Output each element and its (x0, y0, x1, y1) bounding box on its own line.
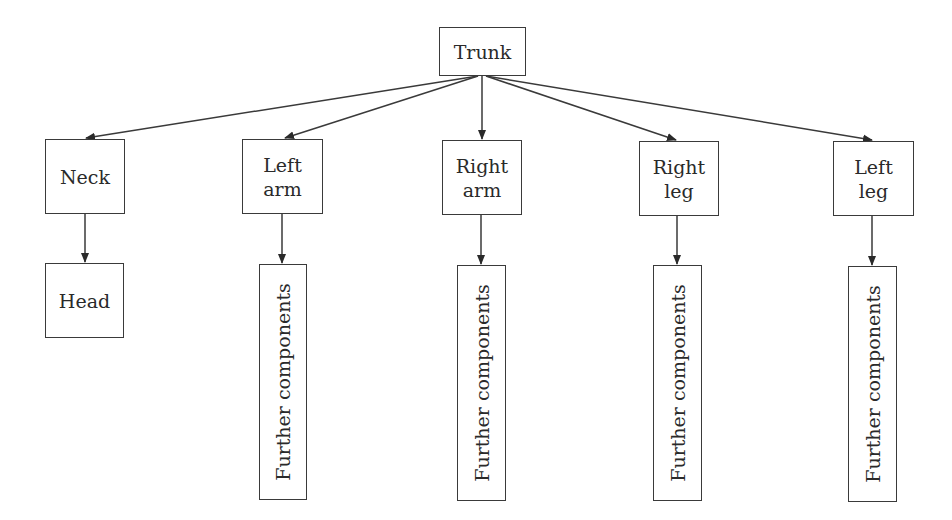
node-label: Right leg (653, 155, 705, 203)
node-left-leg: Left leg (833, 141, 914, 216)
edge-trunk-left-leg (486, 76, 872, 140)
node-label: Head (59, 289, 110, 313)
node-label: Left leg (854, 155, 893, 203)
node-trunk: Trunk (439, 27, 526, 76)
node-right-arm: Right arm (442, 140, 522, 215)
node-label: Further components (271, 283, 295, 481)
node-label: Further components (666, 284, 690, 482)
node-right-leg: Right leg (639, 141, 719, 216)
node-head: Head (45, 263, 124, 338)
node-left-arm-further-components: Further components (259, 264, 307, 500)
node-right-leg-further-components: Further components (653, 265, 702, 501)
edge-trunk-right-leg (486, 76, 676, 140)
edge-trunk-neck (86, 76, 478, 138)
node-label: Left arm (263, 153, 302, 201)
node-label: Further components (861, 285, 885, 483)
edge-trunk-left-arm (285, 76, 478, 138)
node-neck: Neck (45, 139, 125, 214)
node-left-arm: Left arm (242, 139, 323, 214)
node-right-arm-further-components: Further components (457, 265, 506, 501)
node-label: Further components (470, 284, 494, 482)
node-label: Trunk (454, 40, 512, 64)
node-label: Right arm (456, 154, 508, 202)
node-left-leg-further-components: Further components (848, 266, 897, 502)
node-label: Neck (60, 165, 110, 189)
